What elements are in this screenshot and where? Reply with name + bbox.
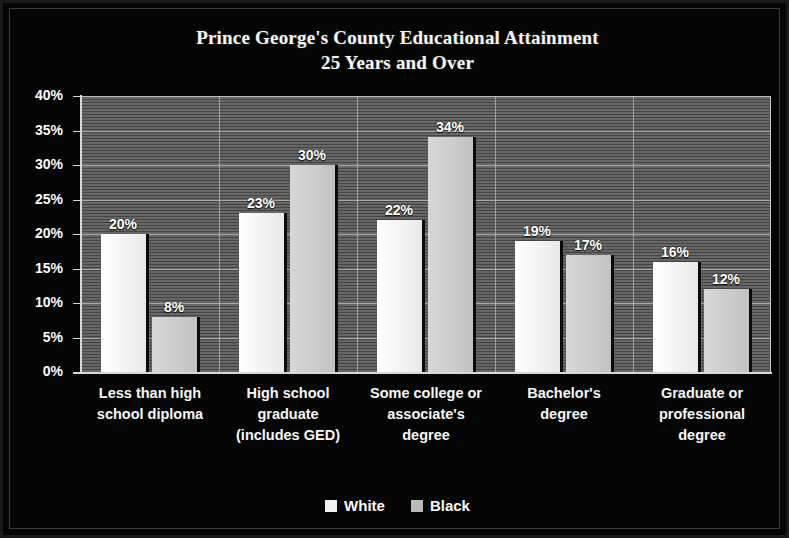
plot-area: 20%8%23%30%22%34%19%17%16%12% bbox=[81, 96, 771, 372]
bar-value-label: 22% bbox=[385, 202, 413, 218]
category-label-line: associate's bbox=[357, 404, 495, 425]
category-label: High schoolgraduate(includes GED) bbox=[219, 383, 357, 446]
bar-group: 20%8% bbox=[81, 96, 219, 372]
bar-value-label: 16% bbox=[661, 244, 689, 260]
bar-value-label: 23% bbox=[247, 195, 275, 211]
bar-black[interactable]: 8% bbox=[152, 317, 200, 372]
category-label-line: school diploma bbox=[81, 404, 219, 425]
y-axis-tick-label: 15% bbox=[3, 260, 63, 276]
category-label-line: Less than high bbox=[81, 383, 219, 404]
category-label-line: degree bbox=[495, 404, 633, 425]
bar-group: 22%34% bbox=[357, 96, 495, 372]
chart-title-line-2: 25 Years and Over bbox=[3, 50, 789, 75]
bar-value-label: 17% bbox=[574, 237, 602, 253]
category-label: Less than highschool diploma bbox=[81, 383, 219, 425]
y-axis-tick-label: 0% bbox=[3, 363, 63, 379]
bar-value-label: 30% bbox=[298, 147, 326, 163]
chart-title-line-1: Prince George's County Educational Attai… bbox=[196, 27, 599, 48]
legend-label: White bbox=[344, 497, 385, 514]
category-label-line: (includes GED) bbox=[219, 425, 357, 446]
bar-white[interactable]: 19% bbox=[515, 241, 563, 372]
category-label-line: Graduate or bbox=[633, 383, 771, 404]
y-axis-tick-label: 5% bbox=[3, 329, 63, 345]
legend-swatch-white bbox=[325, 500, 337, 512]
legend-label: Black bbox=[430, 497, 470, 514]
bar-white[interactable]: 22% bbox=[377, 220, 425, 372]
bar-value-label: 20% bbox=[109, 216, 137, 232]
chart-title: Prince George's County Educational Attai… bbox=[3, 25, 789, 75]
bar-group: 16%12% bbox=[633, 96, 771, 372]
bar-value-label: 34% bbox=[436, 119, 464, 135]
category-label: Some college orassociate'sdegree bbox=[357, 383, 495, 446]
category-label: Bachelor'sdegree bbox=[495, 383, 633, 425]
y-axis-tick-label: 25% bbox=[3, 191, 63, 207]
chart-legend: WhiteBlack bbox=[3, 497, 789, 514]
y-axis-tick-label: 30% bbox=[3, 156, 63, 172]
bar-group: 23%30% bbox=[219, 96, 357, 372]
category-label: Graduate orprofessionaldegree bbox=[633, 383, 771, 446]
category-label-line: degree bbox=[357, 425, 495, 446]
category-label-line: Bachelor's bbox=[495, 383, 633, 404]
y-axis-tick-label: 35% bbox=[3, 122, 63, 138]
y-axis-tick-label: 20% bbox=[3, 225, 63, 241]
y-axis-line bbox=[80, 95, 82, 374]
plot-area-wrapper: 20%8%23%30%22%34%19%17%16%12% bbox=[81, 96, 771, 372]
bar-white[interactable]: 20% bbox=[101, 234, 149, 372]
y-axis-tick-label: 10% bbox=[3, 294, 63, 310]
bar-black[interactable]: 12% bbox=[704, 289, 752, 372]
category-label-line: degree bbox=[633, 425, 771, 446]
category-label-line: professional bbox=[633, 404, 771, 425]
bar-black[interactable]: 30% bbox=[290, 165, 338, 372]
x-axis-line bbox=[73, 372, 772, 374]
legend-item-white[interactable]: White bbox=[325, 497, 385, 514]
category-label-line: High school bbox=[219, 383, 357, 404]
legend-swatch-black bbox=[411, 500, 423, 512]
bar-white[interactable]: 23% bbox=[239, 213, 287, 372]
bar-value-label: 12% bbox=[712, 271, 740, 287]
bar-black[interactable]: 17% bbox=[566, 255, 614, 372]
bar-value-label: 8% bbox=[164, 299, 184, 315]
chart-figure: Prince George's County Educational Attai… bbox=[0, 0, 789, 538]
bar-black[interactable]: 34% bbox=[428, 137, 476, 372]
category-label-line: Some college or bbox=[357, 383, 495, 404]
bar-value-label: 19% bbox=[523, 223, 551, 239]
y-axis-tick-label: 40% bbox=[3, 87, 63, 103]
category-label-line: graduate bbox=[219, 404, 357, 425]
bar-white[interactable]: 16% bbox=[653, 262, 701, 372]
bar-group: 19%17% bbox=[495, 96, 633, 372]
legend-item-black[interactable]: Black bbox=[411, 497, 470, 514]
